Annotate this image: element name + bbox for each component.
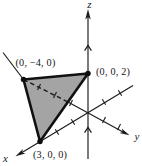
point-label-y-intercept: (0, −4, 0) [16,57,56,69]
point-label-x-intercept: (3, 0, 0) [33,149,67,161]
x-axis-arrowhead-icon [16,149,26,156]
vertex-dot-z-intercept [85,71,90,76]
z-axis-label: z [86,0,92,10]
y-axis-label: y [134,130,140,142]
z-axis [85,9,92,159]
coordinate-diagram: z y x (0, −4, 0) (0, 0, 2) (3, 0, 0) [0,0,142,166]
math-figure: z y x (0, −4, 0) (0, 0, 2) (3, 0, 0) [0,0,142,166]
vertex-dot-y-intercept [21,77,26,82]
point-label-z-intercept: (0, 0, 2) [96,66,130,78]
vertex-dot-x-intercept [37,139,42,144]
y-axis-arrowhead-icon [120,129,130,136]
x-axis-label: x [2,152,8,164]
y-axis-line [68,102,123,132]
